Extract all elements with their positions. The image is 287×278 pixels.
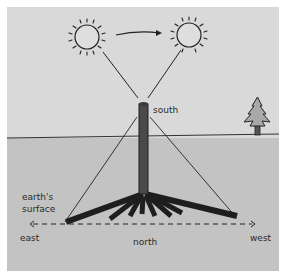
label-north: north [133, 237, 157, 247]
label-surface-line1: earth's [22, 192, 53, 202]
label-east: east [20, 233, 40, 243]
label-south: south [153, 105, 178, 115]
label-west: west [250, 233, 272, 243]
gnomon-pole [139, 104, 148, 194]
pole-top [139, 102, 148, 106]
label-surface-line2: surface [22, 204, 56, 214]
diagram-canvas: south earth's surface east north west [0, 0, 287, 278]
